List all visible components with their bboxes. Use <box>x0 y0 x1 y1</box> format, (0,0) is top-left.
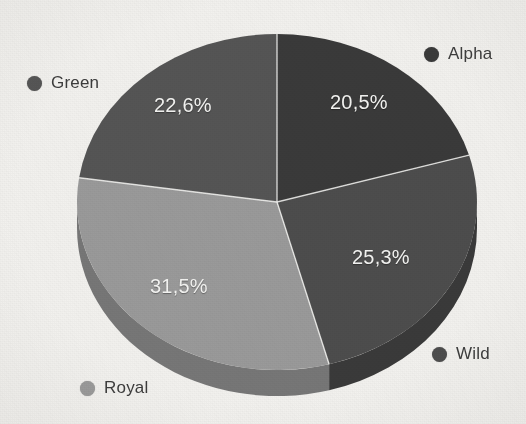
legend-label: Royal <box>104 378 148 398</box>
pie-slice-green[interactable] <box>79 34 277 202</box>
pie-chart-screenshot: 20,5%25,3%31,5%22,6% AlphaGreenWildRoyal <box>0 0 526 424</box>
legend-label: Green <box>51 73 99 93</box>
legend-label: Wild <box>456 344 490 364</box>
legend-item-green[interactable]: Green <box>27 73 99 93</box>
legend-item-wild[interactable]: Wild <box>432 344 490 364</box>
pie-label-wild: 25,3% <box>352 246 410 269</box>
legend-label: Alpha <box>448 44 492 64</box>
legend-swatch-alpha-icon <box>424 47 439 62</box>
legend-item-alpha[interactable]: Alpha <box>424 44 492 64</box>
legend-swatch-royal-icon <box>80 381 95 396</box>
pie-label-green: 22,6% <box>154 94 212 117</box>
pie-label-royal: 31,5% <box>150 275 208 298</box>
legend-item-royal[interactable]: Royal <box>80 378 148 398</box>
legend-swatch-wild-icon <box>432 347 447 362</box>
pie-label-alpha: 20,5% <box>330 91 388 114</box>
legend-swatch-green-icon <box>27 76 42 91</box>
